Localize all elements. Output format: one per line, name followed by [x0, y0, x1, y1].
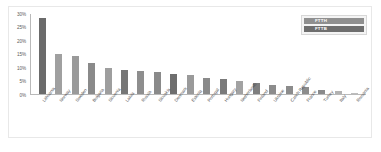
x-label-slot: Turkey [314, 96, 331, 148]
bar-slot [182, 14, 198, 94]
bar-slot [83, 14, 99, 94]
bar[interactable] [351, 93, 358, 94]
bar-slot [133, 14, 149, 94]
bar-slot [50, 14, 66, 94]
bar-slot [116, 14, 132, 94]
y-axis-tick: 0% [20, 93, 26, 98]
bar[interactable] [121, 70, 128, 94]
bar[interactable] [220, 79, 227, 94]
x-label-slot: Czech Republic [281, 96, 298, 148]
x-label-slot: Bulgaria [83, 96, 100, 148]
legend-bar-extension [338, 18, 364, 24]
bar-slot [67, 14, 83, 94]
x-label-slot: Romania [347, 96, 364, 148]
x-label-slot: Latvia [116, 96, 133, 148]
legend-entry[interactable]: FTTB [304, 25, 364, 32]
bar-slot [281, 14, 297, 94]
legend-entry[interactable]: FTTH [304, 18, 364, 25]
x-label-slot: Sweden [66, 96, 83, 148]
bar[interactable] [154, 72, 161, 94]
x-label-slot: Russia [132, 96, 149, 148]
y-axis-tick: 15% [17, 52, 26, 57]
x-label-slot: Denmark [165, 96, 182, 148]
x-label-slot: Norway [50, 96, 67, 148]
bar[interactable] [335, 91, 342, 94]
bar[interactable] [72, 56, 79, 94]
bar[interactable] [269, 85, 276, 94]
bar[interactable] [187, 75, 194, 94]
x-label-slot: Portugal [198, 96, 215, 148]
bar[interactable] [88, 63, 95, 94]
x-label-slot: Lithuania [33, 96, 50, 148]
y-axis-tick: 20% [17, 39, 26, 44]
bar[interactable] [203, 78, 210, 94]
x-label-slot: Slovakia [149, 96, 166, 148]
y-axis-tick: 5% [20, 79, 26, 84]
x-label-slot: Finland [248, 96, 265, 148]
bar[interactable] [55, 54, 62, 95]
bar[interactable] [39, 18, 46, 94]
chart-legend: FTTHFTTB [301, 15, 367, 35]
legend-label: FTTH [304, 18, 338, 24]
x-label-slot: Ukraine [264, 96, 281, 148]
y-axis-tick: 10% [17, 66, 26, 71]
bar-slot [34, 14, 50, 94]
bar-slot [166, 14, 182, 94]
x-label-slot: Hungary [215, 96, 232, 148]
bar[interactable] [286, 86, 293, 94]
chart-container: 30%25%20%15%10%5%0% LithuaniaNorwaySwede… [0, 0, 381, 152]
y-axis-tick: 30% [17, 12, 26, 17]
x-label-slot: Italy [330, 96, 347, 148]
bar-slot [264, 14, 280, 94]
x-axis-labels: LithuaniaNorwaySwedenBulgariaSloveniaLat… [30, 96, 366, 148]
bar-slot [149, 14, 165, 94]
bar[interactable] [170, 74, 177, 94]
bar[interactable] [137, 71, 144, 94]
y-axis-tick: 25% [17, 25, 26, 30]
x-label-slot: Slovenia [99, 96, 116, 148]
bar[interactable] [105, 68, 112, 94]
x-label-slot: France [297, 96, 314, 148]
bar-slot [248, 14, 264, 94]
legend-bar-extension [338, 26, 364, 32]
bar[interactable] [318, 90, 325, 94]
bar-slot [100, 14, 116, 94]
x-label-slot: Estonia [182, 96, 199, 148]
y-axis-labels: 30%25%20%15%10%5%0% [2, 8, 28, 101]
legend-label: FTTB [304, 26, 338, 32]
bar-slot [199, 14, 215, 94]
x-label-slot: Netherlands [231, 96, 248, 148]
bar-slot [215, 14, 231, 94]
bar-slot [231, 14, 247, 94]
bar[interactable] [236, 81, 243, 95]
